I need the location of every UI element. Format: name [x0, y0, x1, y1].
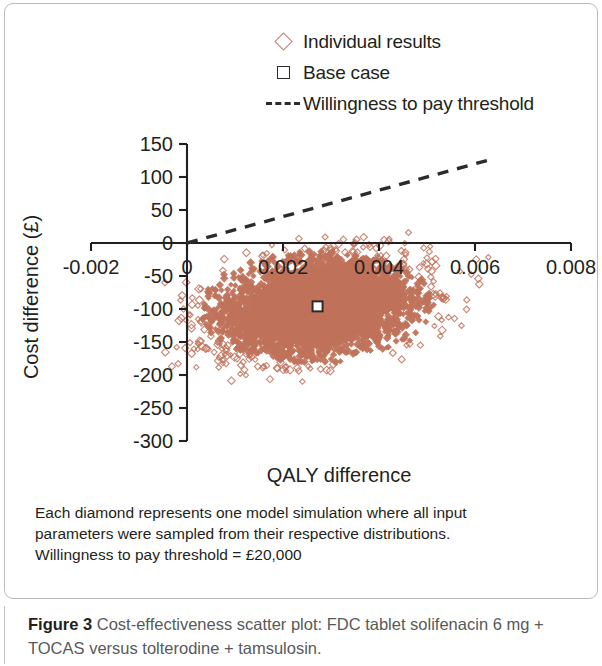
y-tick-label: 50	[151, 199, 173, 221]
y-tick-label: -100	[133, 298, 173, 320]
y-tick-label: -300	[133, 430, 173, 452]
scatter-cloud	[161, 230, 491, 385]
x-tick-label: 0	[181, 256, 192, 278]
plot-note: Each diamond represents one model simula…	[35, 502, 575, 565]
x-axis-title: QALY difference	[267, 464, 412, 486]
x-tick-label: 0.006	[450, 256, 500, 278]
caption-body: Cost-effectiveness scatter plot: FDC tab…	[28, 615, 544, 657]
y-axis-title: Cost difference (£)	[20, 215, 42, 379]
y-tick-label: -50	[144, 265, 173, 287]
y-tick-label: -200	[133, 364, 173, 386]
y-tick-label: 150	[140, 133, 173, 155]
plot-note-line-2: parameters were sampled from their respe…	[35, 523, 575, 544]
y-tick-label: -250	[133, 397, 173, 419]
x-tick-label: 0.002	[258, 256, 308, 278]
figure-caption: Figure 3 Cost-effectiveness scatter plot…	[4, 612, 598, 660]
plot-note-line-3: Willingness to pay threshold = £20,000	[35, 544, 575, 565]
plot-note-line-1: Each diamond represents one model simula…	[35, 502, 575, 523]
wtp-threshold-line	[187, 159, 494, 243]
x-tick-label: 0.004	[354, 256, 404, 278]
figure-panel: Individual results Base case Willingness…	[4, 3, 598, 599]
caption-label: Figure 3	[28, 615, 92, 633]
x-tick-label: 0.008	[546, 256, 596, 278]
y-tick-label: 100	[140, 166, 173, 188]
base-case-marker	[313, 301, 323, 311]
x-tick-label: -0.002	[63, 256, 120, 278]
y-tick-label: 0	[162, 232, 173, 254]
y-tick-label: -150	[133, 331, 173, 353]
